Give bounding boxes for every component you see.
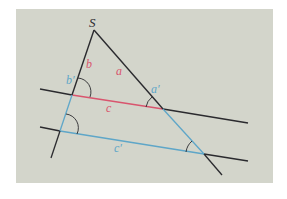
lower-parallel-line-right [204, 154, 248, 161]
upper-parallel-line-right [163, 109, 248, 123]
label-b-prime: b′ [66, 73, 75, 87]
segment-a [94, 30, 163, 109]
left-ray-end [51, 131, 60, 158]
label-c-prime: c′ [114, 141, 122, 155]
segment-a-prime-extension [163, 109, 204, 154]
vertex-label-s: S [89, 15, 96, 30]
right-ray-end [204, 154, 222, 175]
segment-b-prime-extension [60, 95, 72, 131]
label-b: b [86, 57, 92, 71]
angle-arc-upper-left [78, 78, 91, 97]
angle-arc-lower-right [186, 141, 192, 152]
intercept-theorem-diagram: S b a b′ a′ c c′ [0, 0, 287, 199]
lower-parallel-line-left [40, 127, 60, 131]
upper-parallel-line-left [40, 89, 72, 95]
label-c: c [106, 101, 112, 115]
label-a: a [116, 64, 122, 78]
angle-arc-lower-left [66, 114, 78, 134]
segment-c [72, 95, 163, 109]
segment-c-prime [60, 131, 204, 154]
angle-arc-upper-right [146, 97, 152, 107]
label-a-prime: a′ [151, 82, 160, 96]
